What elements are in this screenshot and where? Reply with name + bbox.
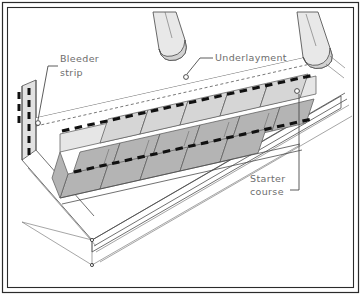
bleeder-strip-label-line2: strip <box>60 67 83 78</box>
bleeder-strip-marker-dot <box>36 121 41 126</box>
figure-container: Bleeder strip Underlayment Starter cours… <box>0 0 361 295</box>
roof-detail-illustration: Bleeder strip Underlayment Starter cours… <box>0 0 361 295</box>
underlayment-marker-dot <box>184 75 189 80</box>
starter-course-label-line1: Starter <box>250 173 285 184</box>
corner-vertex-marker <box>90 238 93 241</box>
starter-course-label-line2: course <box>250 186 284 197</box>
bleeder-strip-label-line1: Bleeder <box>60 53 99 64</box>
starter-course-marker-dot <box>295 89 300 94</box>
underlayment-label: Underlayment <box>215 52 287 63</box>
